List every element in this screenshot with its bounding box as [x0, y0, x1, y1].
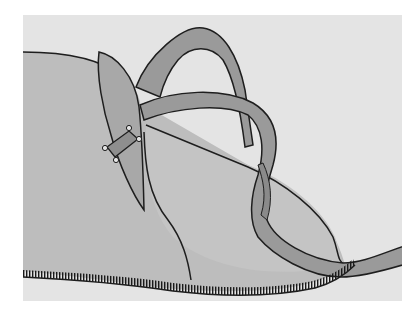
illustration-panel — [23, 15, 402, 301]
garment-illustration — [23, 15, 402, 301]
